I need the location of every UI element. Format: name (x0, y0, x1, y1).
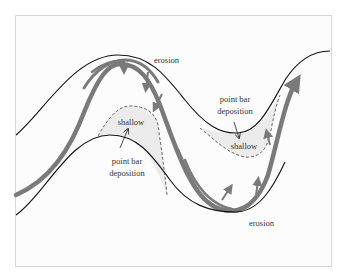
shallow-label-left: shallow (118, 117, 145, 127)
point-bar-left-line1: point bar (112, 156, 143, 166)
erosion-label-bottom: erosion (249, 218, 275, 228)
shallow-label-right: shallow (231, 141, 258, 151)
point-bar-right-line2: deposition (217, 106, 253, 116)
point-bar-right-line1: point bar (220, 94, 251, 104)
point-bar-left-line2: deposition (109, 168, 145, 178)
erosion-label-top: erosion (154, 55, 180, 65)
diagram-canvas: erosion erosion point bar deposition sha… (0, 0, 345, 279)
